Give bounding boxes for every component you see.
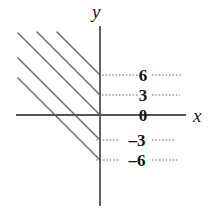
tick-label-0: 0 bbox=[133, 107, 153, 124]
plot-canvas bbox=[0, 0, 212, 217]
tick-label-neg3: –3 bbox=[121, 132, 153, 149]
tick-label-3: 3 bbox=[133, 87, 153, 104]
tick-label-neg6: –6 bbox=[121, 152, 153, 169]
x-axis-label: x bbox=[193, 106, 201, 125]
parallel-lines-group bbox=[18, 32, 100, 160]
line-intercept-0 bbox=[18, 33, 100, 115]
line-intercept-neg6 bbox=[18, 78, 100, 160]
line-intercept-6 bbox=[57, 32, 100, 75]
tick-label-6: 6 bbox=[133, 67, 153, 84]
line-intercept-neg3 bbox=[18, 58, 100, 140]
y-axis-label: y bbox=[92, 2, 100, 21]
coordinate-plane-figure: y x 6 3 0 –3 –6 bbox=[0, 0, 212, 217]
